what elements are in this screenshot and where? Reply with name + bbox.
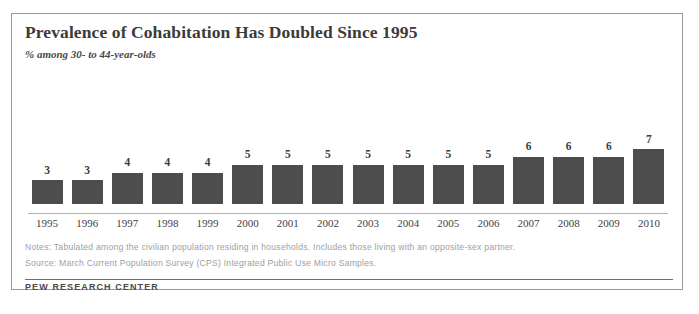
x-axis-tick-label: 2003 [351, 217, 385, 229]
page-title: Prevalence of Cohabitation Has Doubled S… [25, 23, 682, 41]
bar-group: 5 [471, 129, 505, 204]
bar-group: 5 [231, 129, 265, 204]
bar-group: 5 [351, 129, 385, 204]
bar-value-label: 6 [526, 141, 532, 153]
chart-subtitle: % among 30- to 44-year-olds [25, 48, 682, 60]
bar-value-label: 3 [84, 165, 90, 177]
x-axis-tick-label: 1998 [150, 217, 184, 229]
bar-value-label: 5 [365, 149, 371, 161]
bar [593, 157, 624, 204]
bar-value-label: 4 [124, 157, 130, 169]
bar-group: 5 [311, 129, 345, 204]
x-axis-tick-label: 2002 [311, 217, 345, 229]
chart-figure: Prevalence of Cohabitation Has Doubled S… [11, 13, 683, 290]
bar [152, 173, 183, 204]
bar-value-label: 4 [205, 157, 211, 169]
bar-group: 3 [30, 129, 64, 204]
bar [553, 157, 584, 204]
x-axis-tick-label: 1996 [70, 217, 104, 229]
x-axis-tick-label: 1997 [110, 217, 144, 229]
bar-group: 3 [70, 129, 104, 204]
bar [32, 180, 63, 204]
x-axis-tick-label: 2008 [552, 217, 586, 229]
bar-group: 5 [391, 129, 425, 204]
bar-group: 5 [271, 129, 305, 204]
x-axis-tick-label: 1995 [30, 217, 64, 229]
bar-group: 7 [632, 129, 666, 204]
bar [353, 165, 384, 204]
bar-group: 6 [592, 129, 626, 204]
plot-area: 3344455555556667 [30, 129, 666, 204]
x-axis-tick-label: 2004 [391, 217, 425, 229]
source-line: Source: March Current Population Survey … [25, 256, 673, 272]
bar-value-label: 5 [245, 149, 251, 161]
bar-value-label: 5 [285, 149, 291, 161]
bar [192, 173, 223, 204]
bar [272, 165, 303, 204]
bar-value-label: 4 [165, 157, 171, 169]
bar-value-label: 5 [445, 149, 451, 161]
footnotes: Notes: Tabulated among the civilian popu… [25, 240, 673, 272]
bar-value-label: 5 [325, 149, 331, 161]
notes-line: Notes: Tabulated among the civilian popu… [25, 240, 673, 256]
x-axis-tick-label: 2001 [271, 217, 305, 229]
bar-group: 4 [191, 129, 225, 204]
x-axis-line [28, 213, 668, 214]
x-axis-tick-label: 2005 [431, 217, 465, 229]
bar [633, 149, 664, 204]
bar-value-label: 5 [486, 149, 492, 161]
bar [232, 165, 263, 204]
bar-group: 4 [150, 129, 184, 204]
bar-value-label: 6 [566, 141, 572, 153]
bar-series: 3344455555556667 [30, 129, 666, 204]
brand-label: PEW RESEARCH CENTER [25, 282, 159, 292]
x-axis-tick-label: 2009 [592, 217, 626, 229]
x-axis-tick-label: 2000 [231, 217, 265, 229]
bar-group: 4 [110, 129, 144, 204]
x-axis-tick-label: 2007 [512, 217, 546, 229]
bar-value-label: 5 [405, 149, 411, 161]
bar [513, 157, 544, 204]
bar [112, 173, 143, 204]
bar-group: 6 [552, 129, 586, 204]
x-axis-tick-label: 2010 [632, 217, 666, 229]
bar [433, 165, 464, 204]
x-axis-tick-labels: 1995199619971998199920002001200220032004… [30, 217, 666, 229]
bar [72, 180, 103, 204]
bar [473, 165, 504, 204]
bar-value-label: 3 [44, 165, 50, 177]
x-axis-tick-label: 2006 [471, 217, 505, 229]
chart-header: Prevalence of Cohabitation Has Doubled S… [12, 14, 682, 60]
footer-divider [25, 279, 673, 280]
bar-group: 6 [512, 129, 546, 204]
bar-group: 5 [431, 129, 465, 204]
bar-value-label: 7 [646, 134, 652, 146]
bar [393, 165, 424, 204]
bar-value-label: 6 [606, 141, 612, 153]
x-axis-tick-label: 1999 [191, 217, 225, 229]
bar [312, 165, 343, 204]
